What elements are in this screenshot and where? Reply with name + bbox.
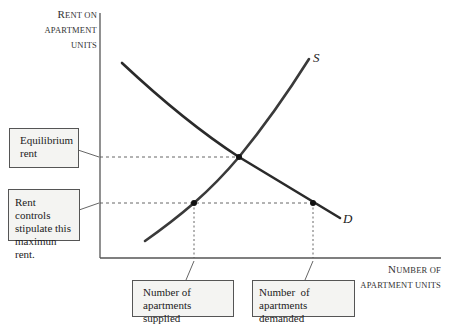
- x-label-line2: APARTMENT UNITS: [360, 278, 441, 293]
- x-axis-label: NUMBER OF APARTMENT UNITS: [360, 262, 441, 293]
- rent-control-callout: Rent controls stipulate this maximun ren…: [8, 189, 80, 241]
- y-label-line3: UNITS: [45, 38, 97, 53]
- x-label-line1: UMBER OF: [396, 265, 441, 275]
- equilibrium-rent-callout: Equilibrium rent: [9, 128, 79, 168]
- supply-label: S: [313, 50, 320, 66]
- equilibrium-point: [236, 154, 242, 160]
- y-axis-label: RENT ON APARTMENT UNITS: [45, 7, 97, 53]
- x-label-cap: N: [388, 263, 396, 275]
- quantity-demanded-callout: Number of apartments demanded: [252, 280, 355, 317]
- supplied-leader: [186, 261, 194, 280]
- demanded-point: [310, 200, 316, 206]
- demand-label: D: [343, 211, 352, 227]
- y-label-line1: ENT ON: [65, 10, 97, 20]
- equilibrium-leader: [78, 150, 99, 157]
- demanded-leader: [305, 261, 313, 280]
- quantity-supplied-callout: Number of apartments supplied: [132, 280, 234, 317]
- demand-curve: [122, 63, 340, 218]
- y-label-cap: R: [57, 8, 65, 20]
- y-label-line2: APARTMENT: [45, 23, 97, 38]
- supplied-point: [191, 200, 197, 206]
- rent-control-leader: [79, 203, 99, 210]
